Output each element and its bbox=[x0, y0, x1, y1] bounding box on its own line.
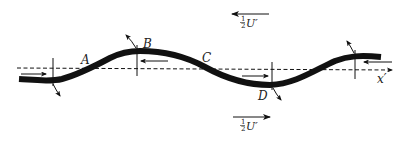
bottom-velocity-indicator: 1 2 U′ bbox=[233, 117, 270, 133]
svg-text:2: 2 bbox=[241, 22, 245, 30]
top-velocity-indicator: 1 2 U′ bbox=[232, 14, 269, 30]
rotation-marker-2 bbox=[126, 35, 137, 76]
point-label-c: C bbox=[202, 51, 211, 65]
point-label-b: B bbox=[142, 37, 152, 51]
axis-label-x-prime: x′ bbox=[377, 72, 387, 86]
top-velocity-symbol: U′ bbox=[246, 17, 258, 30]
point-label-a: A bbox=[80, 53, 90, 67]
bottom-velocity-symbol: U′ bbox=[246, 120, 258, 133]
wavy-filament bbox=[19, 51, 381, 85]
point-label-d: D bbox=[257, 89, 268, 103]
wave-diagram: x′ A B C D 1 2 U′ 1 2 U′ bbox=[0, 0, 409, 142]
svg-text:2: 2 bbox=[241, 125, 245, 133]
